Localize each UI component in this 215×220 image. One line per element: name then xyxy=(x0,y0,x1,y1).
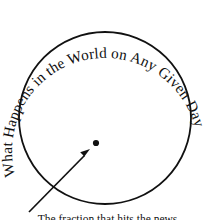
arc-title-text: What Happens in the World on Any Given D… xyxy=(0,44,209,179)
diagram-svg: What Happens in the World on Any Given D… xyxy=(0,0,215,220)
arc-title-textpath: What Happens in the World on Any Given D… xyxy=(0,44,209,179)
diagram-canvas: What Happens in the World on Any Given D… xyxy=(0,0,215,220)
single-day-dot xyxy=(93,140,99,146)
annotation-arrow-head xyxy=(80,149,90,157)
annotation-arrow-shaft xyxy=(29,156,85,213)
